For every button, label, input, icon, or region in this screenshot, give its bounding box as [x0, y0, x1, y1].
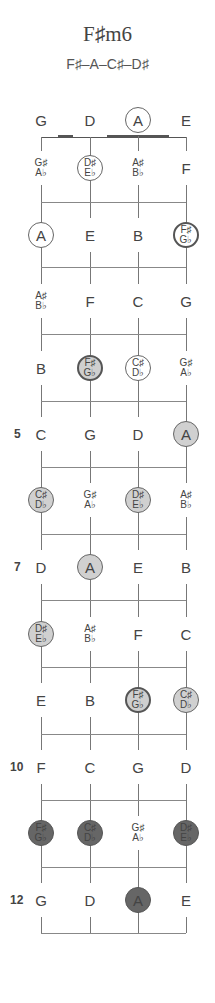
note-name: E [85, 228, 95, 243]
note-label: E [73, 218, 107, 252]
note-label: G [24, 103, 58, 137]
fret-line [41, 267, 186, 268]
note-name: A [133, 893, 143, 908]
note-marker: F♯G♭ [28, 820, 54, 846]
note-label: C [24, 417, 58, 451]
string-line [186, 136, 187, 933]
note-flat-name: A♭ [84, 500, 96, 510]
note-name: B [181, 560, 191, 575]
note-flat-name: D♭ [132, 368, 144, 378]
note-label: A♯B♭ [169, 483, 203, 517]
note-marker: F♯G♭ [125, 687, 151, 713]
note-name: E [181, 893, 191, 908]
note-name: G [180, 294, 192, 309]
note-flat-name: G♭ [180, 235, 193, 245]
note-name: D [181, 760, 192, 775]
note-name: D [85, 113, 96, 128]
note-flat-name: D♭ [35, 500, 47, 510]
note-label: G♯A♭ [169, 351, 203, 385]
fret-line [41, 867, 186, 868]
note-label: C [73, 750, 107, 784]
note-label: B [169, 550, 203, 584]
note-name: C [36, 427, 47, 442]
note-label: G [73, 417, 107, 451]
note-marker: A [125, 887, 151, 913]
note-marker: A [125, 107, 151, 133]
note-marker: F♯G♭ [173, 222, 199, 248]
note-label: A♯B♭ [73, 617, 107, 651]
fret-line [41, 334, 186, 335]
note-flat-name: A♭ [180, 368, 192, 378]
note-label: B [24, 351, 58, 385]
fret-line [41, 667, 186, 668]
note-name: F [133, 627, 142, 642]
note-label: E [121, 550, 155, 584]
note-name: G [35, 113, 47, 128]
note-label: F [169, 151, 203, 185]
fret-number: 12 [10, 893, 23, 907]
note-label: D [121, 417, 155, 451]
note-label: G♯A♭ [24, 151, 58, 185]
fret-number: 5 [14, 427, 21, 441]
note-flat-name: G♭ [35, 833, 48, 843]
note-marker: D♯E♭ [28, 621, 54, 647]
fret-line [41, 467, 186, 468]
note-marker: C♯D♭ [125, 355, 151, 381]
note-name: E [133, 560, 143, 575]
note-flat-name: A♭ [35, 168, 47, 178]
note-name: C [133, 294, 144, 309]
note-marker: C♯D♭ [28, 487, 54, 513]
fret-line [41, 600, 186, 601]
note-marker: C♯D♭ [77, 820, 103, 846]
note-name: C [181, 627, 192, 642]
note-flat-name: D♭ [180, 700, 192, 710]
note-marker: D♯E♭ [77, 155, 103, 181]
note-flat-name: D♭ [84, 833, 96, 843]
note-flat-name: E♭ [84, 168, 96, 178]
note-name: F [36, 760, 45, 775]
note-marker: D♯E♭ [173, 820, 199, 846]
fret-line [41, 534, 186, 535]
note-name: A [181, 427, 191, 442]
note-label: D [73, 103, 107, 137]
note-name: E [36, 693, 46, 708]
nut [41, 135, 187, 138]
note-name: F [181, 161, 190, 176]
note-label: E [169, 103, 203, 137]
note-name: E [181, 113, 191, 128]
fret-line [41, 800, 186, 801]
note-name: G [84, 427, 96, 442]
note-name: D [133, 427, 144, 442]
note-name: A [133, 113, 143, 128]
fret-number: 7 [14, 560, 21, 574]
fret-line [41, 401, 186, 402]
note-label: B [73, 683, 107, 717]
note-name: A [85, 560, 95, 575]
note-label: G [169, 284, 203, 318]
note-marker: C♯D♭ [173, 687, 199, 713]
note-name: D [36, 560, 47, 575]
note-label: G [24, 883, 58, 917]
note-flat-name: G♭ [132, 700, 145, 710]
note-name: B [133, 228, 143, 243]
note-name: A [36, 228, 46, 243]
note-label: B [121, 218, 155, 252]
note-label: G♯A♭ [73, 483, 107, 517]
note-name: G [132, 760, 144, 775]
note-name: F [85, 294, 94, 309]
fret-number: 10 [10, 760, 23, 774]
note-flat-name: B♭ [180, 500, 192, 510]
note-label: A♯B♭ [24, 284, 58, 318]
note-flat-name: A♭ [132, 833, 144, 843]
note-flat-name: B♭ [84, 634, 96, 644]
note-name: B [85, 693, 95, 708]
fret-line [41, 202, 186, 203]
note-label: A♯B♭ [121, 151, 155, 185]
note-label: C [121, 284, 155, 318]
note-label: D [24, 550, 58, 584]
note-label: C [169, 617, 203, 651]
note-marker: D♯E♭ [125, 487, 151, 513]
note-label: E [24, 683, 58, 717]
note-label: E [169, 883, 203, 917]
note-flat-name: E♭ [180, 833, 192, 843]
